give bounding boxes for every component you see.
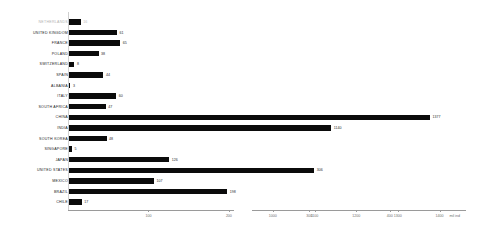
axis-tick — [309, 210, 310, 213]
bar — [68, 189, 227, 194]
axis-tick — [440, 210, 441, 213]
axis-tick-label: 100 — [136, 214, 160, 218]
bar — [68, 40, 120, 45]
axis-tick-label: 200 — [217, 214, 241, 218]
x-axis-left — [68, 210, 234, 211]
x-axis-right — [252, 210, 466, 211]
axis-tick-label: 1300 — [386, 214, 410, 218]
bar — [68, 19, 81, 24]
bar — [68, 30, 117, 35]
axis-tick — [390, 210, 391, 213]
axis-tick-label: 1200 — [344, 214, 368, 218]
axis-tick — [273, 210, 274, 213]
axis-tick — [356, 210, 357, 213]
value-label: 17 — [84, 196, 88, 208]
axis-tick-label: 1100 — [303, 214, 327, 218]
axis-tick — [398, 210, 399, 213]
category-label: CHILE — [56, 196, 68, 208]
bar — [68, 199, 82, 204]
bar — [68, 178, 154, 183]
bar — [68, 93, 116, 98]
axis-tick-label: 1000 — [261, 214, 285, 218]
bar — [68, 51, 99, 56]
axis-tick — [148, 210, 149, 213]
axis-tick — [315, 210, 316, 213]
bar-chart: NETHERLANDS16UNITED KINGDOM61FRANCE65POL… — [0, 0, 487, 232]
bar — [68, 115, 430, 120]
bar — [68, 125, 331, 130]
bar — [68, 104, 106, 109]
bar — [68, 72, 103, 77]
axis-tick — [229, 210, 230, 213]
bar-row: CHILE17 — [0, 196, 487, 208]
axis-unit-label: mil ind — [450, 214, 460, 218]
bar — [68, 157, 169, 162]
axis-tick-label: 1400 — [428, 214, 452, 218]
bar — [68, 136, 107, 141]
origin-gridline — [68, 12, 69, 211]
bar — [68, 168, 314, 173]
plot-area: NETHERLANDS16UNITED KINGDOM61FRANCE65POL… — [0, 0, 487, 232]
